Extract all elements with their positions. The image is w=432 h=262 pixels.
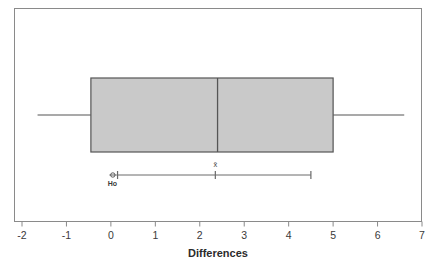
x-axis-tick-label: 7 <box>419 229 425 241</box>
x-axis-tick-label: 4 <box>286 229 292 241</box>
x-axis-tick-label: 6 <box>375 229 381 241</box>
x-axis-tick-label: -2 <box>17 229 26 241</box>
x-axis-tick-label: 2 <box>197 229 203 241</box>
x-axis-tick-label: 3 <box>241 229 247 241</box>
mean-symbol-label: x̄ <box>213 160 217 169</box>
boxplot-figure: -2-101234567 x̄ Ho Differences <box>0 0 432 262</box>
null-hypothesis-label: Ho <box>108 180 117 187</box>
x-axis-tick-label: -1 <box>62 229 71 241</box>
x-axis-ticks <box>22 222 422 227</box>
x-axis-title: Differences <box>188 247 248 259</box>
x-axis-tick-label: 5 <box>330 229 336 241</box>
x-axis-tick-label: 0 <box>108 229 114 241</box>
boxplot-canvas: -2-101234567 x̄ Ho Differences <box>0 0 432 262</box>
interquartile-box <box>91 78 333 152</box>
x-axis-tick-label: 1 <box>152 229 158 241</box>
x-axis-tick-labels: -2-101234567 <box>17 229 425 241</box>
